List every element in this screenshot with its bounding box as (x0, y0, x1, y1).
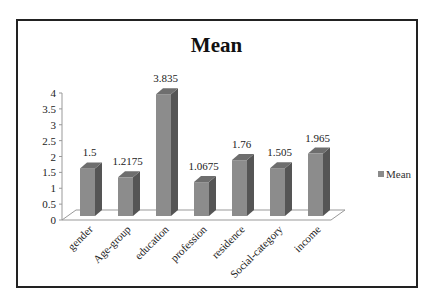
svg-text:1.2175: 1.2175 (112, 155, 143, 167)
svg-text:residence: residence (209, 223, 247, 261)
svg-text:0.5: 0.5 (42, 198, 56, 210)
svg-text:1.5: 1.5 (83, 146, 97, 158)
svg-text:3: 3 (51, 119, 57, 131)
svg-text:1.505: 1.505 (267, 146, 292, 158)
svg-text:1.0675: 1.0675 (188, 160, 219, 172)
svg-text:2: 2 (51, 151, 57, 163)
svg-text:income: income (292, 223, 323, 254)
svg-text:Age-group: Age-group (91, 223, 134, 266)
svg-text:4: 4 (51, 87, 57, 99)
svg-text:0: 0 (51, 214, 57, 226)
bar-gender: 1.5gender (65, 146, 102, 252)
bar-chart: 00.511.522.533.541.5gender1.2175Age-grou… (0, 0, 433, 307)
legend-swatch-icon (378, 171, 384, 177)
svg-text:1.76: 1.76 (232, 138, 252, 150)
svg-text:gender: gender (65, 223, 95, 253)
svg-text:3.835: 3.835 (153, 72, 178, 84)
svg-text:1: 1 (51, 182, 57, 194)
svg-text:3.5: 3.5 (42, 103, 56, 115)
legend-label: Mean (386, 168, 411, 180)
svg-text:profession: profession (168, 223, 209, 264)
svg-text:2.5: 2.5 (42, 135, 56, 147)
bar-income: 1.965income (292, 132, 331, 255)
svg-text:1.965: 1.965 (305, 132, 330, 144)
svg-text:education: education (132, 223, 171, 262)
svg-text:1.5: 1.5 (42, 166, 56, 178)
legend: Mean (378, 168, 411, 180)
